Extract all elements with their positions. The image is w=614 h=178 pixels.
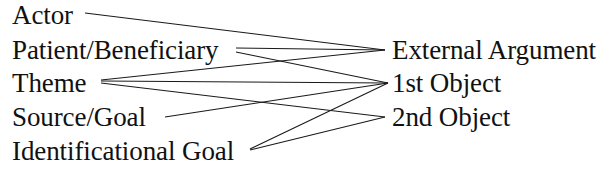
edge-identificational-goal-external-argument xyxy=(250,83,388,149)
edge-identificational-goal-second-object xyxy=(250,117,385,150)
role-mapping-diagram: Actor Patient/Beneficiary Theme Source/G… xyxy=(0,0,614,178)
syntactic-position-external-argument: External Argument xyxy=(392,37,596,64)
edge-source-goal-first-object xyxy=(165,83,388,117)
edge-patient-beneficiary-external-argument xyxy=(236,48,385,50)
thematic-role-source-goal: Source/Goal xyxy=(12,104,146,131)
syntactic-position-first-object: 1st Object xyxy=(392,70,501,97)
thematic-role-theme: Theme xyxy=(12,70,86,97)
thematic-role-actor: Actor xyxy=(12,2,73,29)
thematic-role-patient-beneficiary: Patient/Beneficiary xyxy=(12,37,219,64)
thematic-role-identificational-goal: Identificational Goal xyxy=(12,138,234,165)
syntactic-position-second-object: 2nd Object xyxy=(392,104,510,131)
edge-theme-first-object xyxy=(101,81,388,83)
edge-patient-beneficiary-first-object xyxy=(236,52,388,83)
